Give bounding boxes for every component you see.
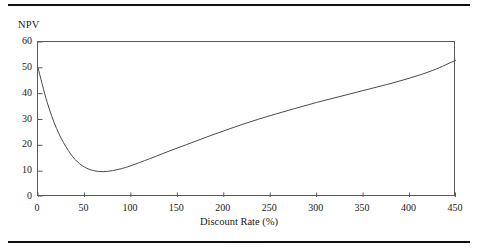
x-tick-label: 50 [63,203,103,213]
x-tick-label: 150 [156,203,196,213]
x-tick-label: 350 [342,203,382,213]
figure-container: NPV 0102030405060 0501001502002503003504… [0,0,478,250]
x-axis-title: Discount Rate (%) [0,216,478,228]
x-tick-label: 100 [110,203,150,213]
x-tick-label: 200 [203,203,243,213]
x-tick-label: 250 [249,203,289,213]
x-tick-label: 0 [17,203,57,213]
figure-rule-bottom [8,241,470,243]
x-tick-label: 450 [435,203,475,213]
x-tick-label: 300 [296,203,336,213]
x-tick-label: 400 [389,203,429,213]
x-axis-tick-labels: 050100150200250300350400450 [0,0,478,250]
